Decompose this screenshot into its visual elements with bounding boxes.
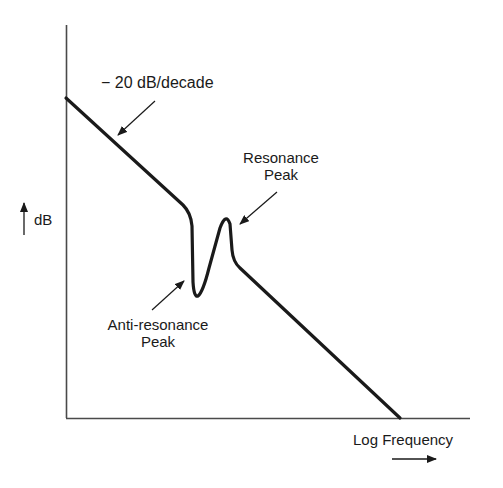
resonance-label: Resonance Peak <box>226 149 336 183</box>
antiresonance-arrow-icon <box>152 281 184 310</box>
antiresonance-label-line2: Peak <box>88 333 228 350</box>
slope-arrow-icon <box>118 101 155 135</box>
resonance-label-line2: Peak <box>226 166 336 183</box>
antiresonance-label-line1: Anti-resonance <box>88 316 228 333</box>
response-diagram <box>0 0 503 488</box>
antiresonance-label: Anti-resonance Peak <box>88 316 228 350</box>
magnitude-response-curve <box>66 98 400 418</box>
y-axis-label: dB <box>34 211 52 228</box>
resonance-label-line1: Resonance <box>226 149 336 166</box>
slope-label: − 20 dB/decade <box>101 74 214 91</box>
x-axis-label: Log Frequency <box>353 431 453 448</box>
resonance-arrow-icon <box>240 192 277 224</box>
